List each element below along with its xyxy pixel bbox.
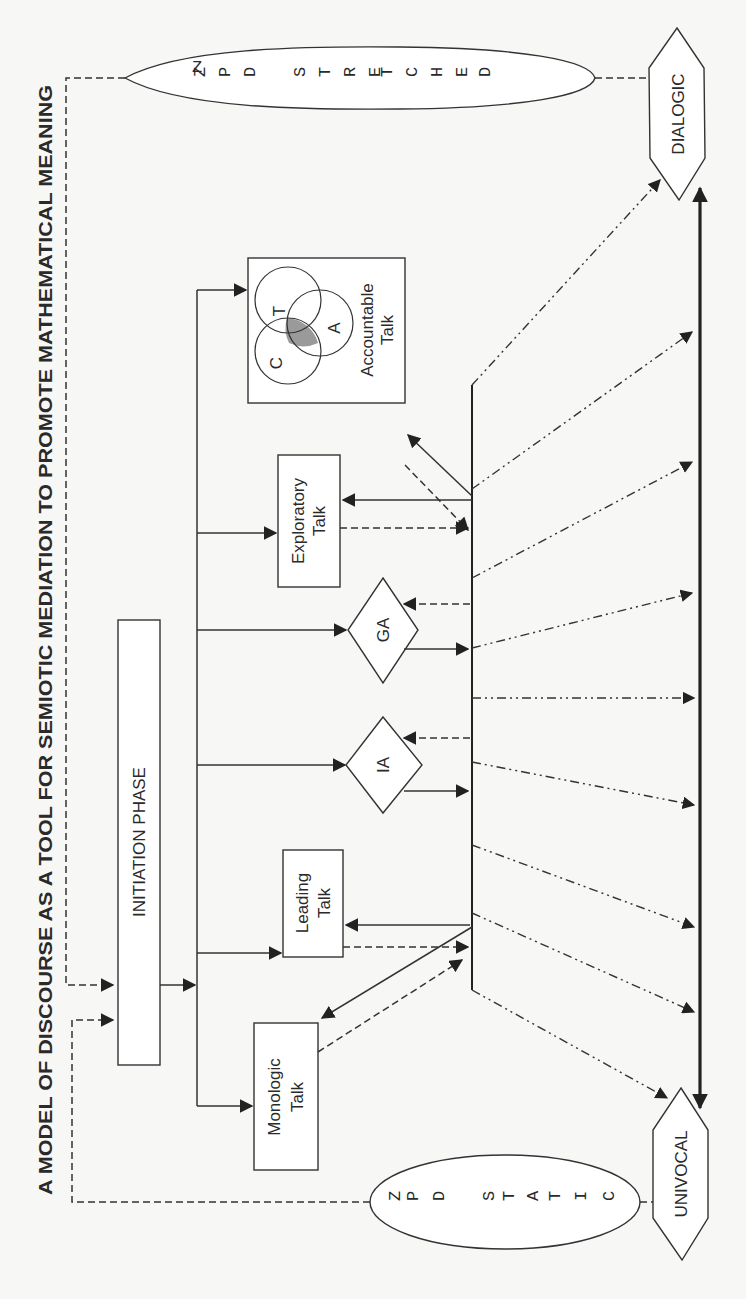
dialogic-pole: DIALOGIC [649, 28, 705, 200]
letter: T [316, 67, 335, 77]
letter: C [403, 67, 422, 77]
letter: P [404, 1191, 423, 1201]
hub-continuum-fan [472, 180, 694, 1098]
letter: R [341, 67, 360, 77]
leading-line2: Talk [315, 887, 334, 918]
leading-talk-box: Leading Talk [283, 850, 343, 957]
letter: C [600, 1191, 619, 1201]
letter: I [572, 1191, 591, 1201]
exploratory-line2: Talk [310, 505, 329, 536]
letter: A [524, 1190, 543, 1201]
letter: T [546, 1191, 565, 1201]
initiation-phase-box: INITIATION PHASE [118, 620, 160, 1065]
ia-diamond: IA [346, 717, 422, 813]
dialogic-label: DIALOGIC [669, 73, 688, 154]
letter: D [476, 67, 495, 77]
monologic-line2: Talk [288, 1081, 307, 1112]
monologic-line1: Monologic [265, 1058, 284, 1136]
venn-label-c: C [267, 357, 286, 369]
ga-diamond: GA [348, 578, 418, 683]
accountable-line1: Accountable [358, 283, 377, 377]
letter: S [291, 67, 310, 77]
letter: P [216, 67, 235, 77]
letter: T [500, 1191, 519, 1201]
univocal-label: UNIVOCAL [672, 1131, 691, 1218]
trunk-branches [197, 290, 346, 1106]
diagram-title: A MODEL OF DISCOURSE AS A TOOL FOR SEMIO… [35, 85, 56, 1195]
letter: T [378, 67, 397, 77]
zpd-static-label: Z P D S T A T I C [386, 1190, 619, 1201]
accountable-line2: Talk [378, 314, 397, 345]
letter: H [428, 67, 447, 77]
exploratory-talk-box: Exploratory Talk [278, 455, 340, 587]
leading-line1: Leading [293, 873, 312, 934]
letter: D [430, 1191, 449, 1201]
initiation-phase-label: INITIATION PHASE [130, 767, 149, 917]
ia-label: IA [374, 756, 393, 773]
letter: Z [386, 1191, 405, 1201]
letter: D [241, 67, 260, 77]
discourse-model-diagram: A MODEL OF DISCOURSE AS A TOOL FOR SEMIO… [0, 0, 746, 1299]
letter: S [480, 1191, 499, 1201]
accountable-talk-box: C T A Accountable Talk [248, 258, 405, 403]
letter: E [453, 67, 472, 77]
univocal-pole: UNIVOCAL [653, 1088, 708, 1260]
venn-label-a: A [325, 322, 344, 334]
monologic-talk-box: Monologic Talk [254, 1023, 318, 1170]
exploratory-line1: Exploratory [289, 478, 308, 564]
ga-label: GA [374, 617, 393, 642]
venn-label-t: T [270, 306, 289, 316]
letter: Z [191, 67, 210, 77]
